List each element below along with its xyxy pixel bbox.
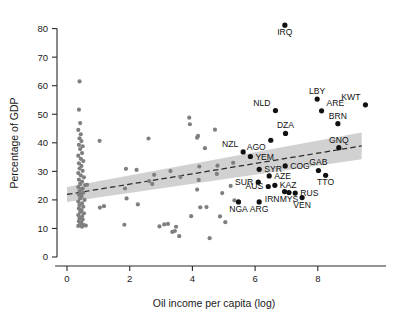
x-axis-title: Oil income per capita (log) — [153, 297, 276, 309]
svg-text:NGA: NGA — [229, 204, 248, 214]
svg-text:0: 0 — [43, 251, 48, 262]
svg-text:NZL: NZL — [222, 139, 238, 149]
svg-text:6: 6 — [252, 273, 257, 284]
svg-text:DZA: DZA — [277, 120, 294, 130]
svg-text:KWT: KWT — [341, 92, 361, 102]
background-data-points — [76, 79, 236, 240]
plot-canvas: IRQKWTLBYAREBRNNLDDZAAGOGNQNZLYEMSYRCOGG… — [0, 0, 393, 317]
labeled-data-points — [236, 23, 368, 205]
svg-text:GAB: GAB — [309, 157, 327, 167]
y-axis-title: Percentage of GDP — [8, 97, 20, 188]
svg-text:8: 8 — [315, 273, 320, 284]
svg-text:TTO: TTO — [317, 177, 334, 187]
svg-text:YEM: YEM — [255, 152, 274, 162]
scatter-plot-figure: IRQKWTLBYAREBRNNLDDZAAGOGNQNZLYEMSYRCOGG… — [0, 0, 393, 317]
svg-text:4: 4 — [190, 273, 195, 284]
svg-text:RUS: RUS — [300, 188, 318, 198]
svg-text:70: 70 — [37, 52, 48, 63]
svg-text:50: 50 — [37, 109, 48, 120]
data-point-labels: IRQKWTLBYAREBRNNLDDZAAGOGNQNZLYEMSYRCOGG… — [222, 27, 361, 214]
svg-text:0: 0 — [64, 273, 69, 284]
svg-text:80: 80 — [37, 23, 48, 34]
svg-text:2: 2 — [127, 273, 132, 284]
svg-text:NLD: NLD — [253, 98, 270, 108]
svg-text:10: 10 — [37, 223, 48, 234]
svg-text:BRN: BRN — [329, 111, 347, 121]
svg-text:KAZ: KAZ — [280, 180, 297, 190]
svg-text:AUS: AUS — [246, 181, 264, 191]
svg-text:20: 20 — [37, 194, 48, 205]
svg-text:IRN: IRN — [265, 194, 280, 204]
svg-text:30: 30 — [37, 166, 48, 177]
svg-text:GNQ: GNQ — [329, 135, 349, 145]
svg-text:COG: COG — [290, 161, 310, 171]
svg-text:40: 40 — [37, 137, 48, 148]
svg-text:ARG: ARG — [250, 204, 269, 214]
svg-text:ARE: ARE — [327, 98, 345, 108]
svg-text:LBY: LBY — [309, 86, 326, 96]
svg-text:VEN: VEN — [293, 200, 311, 210]
svg-text:60: 60 — [37, 80, 48, 91]
svg-text:IRQ: IRQ — [277, 27, 293, 37]
